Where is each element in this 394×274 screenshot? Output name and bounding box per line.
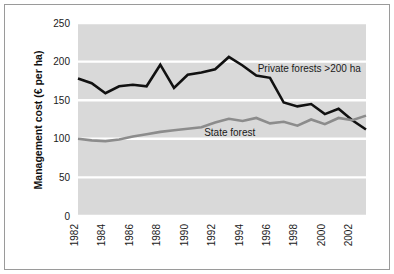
y-tick-label: 100 xyxy=(53,133,70,144)
x-tick-label: 1986 xyxy=(124,224,135,247)
y-axis-label: Management cost (€ per ha) xyxy=(32,51,44,190)
series-label: Private forests >200 ha xyxy=(258,63,362,74)
x-tick-label: 1982 xyxy=(69,224,80,247)
y-axis-ticks: 050100150200250 xyxy=(53,18,70,222)
y-tick-label: 50 xyxy=(59,172,71,183)
x-tick-label: 1988 xyxy=(151,224,162,247)
x-tick-label: 1984 xyxy=(96,224,107,247)
y-tick-label: 200 xyxy=(53,56,70,67)
x-tick-label: 1990 xyxy=(179,224,190,247)
x-tick-label: 1994 xyxy=(234,224,245,247)
series-label: State forest xyxy=(204,127,255,138)
x-tick-label: 1996 xyxy=(261,224,272,247)
x-axis-ticks: 1982198419861988199019921994199619982000… xyxy=(69,224,354,247)
x-tick-label: 1992 xyxy=(206,224,217,247)
x-tick-label: 1998 xyxy=(288,224,299,247)
y-tick-label: 0 xyxy=(64,211,70,222)
chart-figure: 050100150200250 198219841986198819901992… xyxy=(0,0,394,274)
line-chart: 050100150200250 198219841986198819901992… xyxy=(0,0,394,274)
y-tick-label: 250 xyxy=(53,18,70,29)
x-tick-label: 2000 xyxy=(316,224,327,247)
y-tick-label: 150 xyxy=(53,95,70,106)
x-tick-label: 2002 xyxy=(343,224,354,247)
